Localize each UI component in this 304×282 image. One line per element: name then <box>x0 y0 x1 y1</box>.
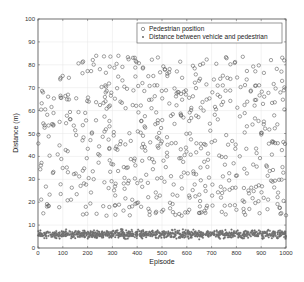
y-tick-labels: 0102030405060708090100 <box>25 16 36 251</box>
x-tick-label: 800 <box>231 250 242 256</box>
legend-label-distance: Distance between vehicle and pedestrian <box>149 33 268 41</box>
y-tick-label: 50 <box>28 131 35 137</box>
x-tick-label: 600 <box>182 250 193 256</box>
y-axis-title: Distance (m) <box>12 113 20 153</box>
x-tick-label: 700 <box>207 250 218 256</box>
x-tick-labels: 01002003004005006007008009001000 <box>36 250 293 256</box>
y-tick-label: 70 <box>28 85 35 91</box>
x-tick-label: 100 <box>58 250 69 256</box>
x-tick-label: 400 <box>132 250 143 256</box>
y-tick-label: 100 <box>25 16 36 22</box>
x-tick-label: 300 <box>107 250 118 256</box>
y-tick-label: 90 <box>28 39 35 45</box>
x-tick-label: 200 <box>83 250 94 256</box>
legend: Pedestrian position Distance between veh… <box>137 23 282 43</box>
y-tick-label: 60 <box>28 108 35 114</box>
x-tick-label: 1000 <box>279 250 293 256</box>
legend-marker-dot-icon <box>142 36 144 38</box>
y-tick-label: 40 <box>28 153 35 159</box>
y-tick-label: 80 <box>28 62 35 68</box>
scatter-chart: 01002003004005006007008009001000 0102030… <box>0 0 304 282</box>
x-tick-label: 500 <box>157 250 168 256</box>
y-tick-label: 0 <box>32 245 36 251</box>
x-tick-label: 0 <box>36 250 40 256</box>
y-tick-label: 10 <box>28 222 35 228</box>
x-axis-title: Episode <box>149 258 174 266</box>
x-tick-label: 900 <box>256 250 267 256</box>
legend-label-pedestrian: Pedestrian position <box>149 25 205 33</box>
y-tick-label: 30 <box>28 176 35 182</box>
y-tick-label: 20 <box>28 199 35 205</box>
